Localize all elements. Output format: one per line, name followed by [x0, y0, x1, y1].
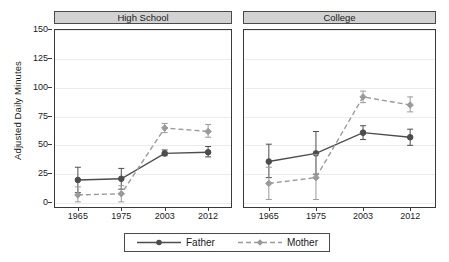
series-mother	[266, 91, 414, 199]
y-tick-label: 0	[14, 198, 48, 207]
data-point	[360, 130, 366, 136]
y-tick-label: 75	[14, 111, 48, 120]
y-tick-mark	[48, 202, 52, 203]
data-point	[118, 176, 124, 182]
data-point	[75, 177, 81, 183]
series-father	[75, 146, 211, 192]
data-point	[205, 149, 211, 155]
data-point	[162, 125, 168, 131]
plot-inner-high-school	[55, 30, 231, 207]
y-tick-label: 25	[14, 169, 48, 178]
legend-swatch-father	[136, 237, 182, 248]
data-point	[266, 159, 272, 165]
x-tick-label: 1965	[68, 212, 88, 221]
data-point	[162, 151, 168, 157]
legend-label: Mother	[287, 238, 318, 248]
series-line	[269, 133, 410, 162]
y-tick-label: 100	[14, 82, 48, 91]
y-axis-tick-labels: 0255075100125150	[14, 0, 48, 262]
panel-title-high-school: High School	[54, 11, 232, 24]
series-line	[269, 97, 410, 183]
y-tick-mark	[48, 173, 52, 174]
series-line	[78, 152, 208, 180]
legend-entry-mother[interactable]: Mother	[237, 237, 318, 248]
series-line	[78, 128, 208, 195]
y-tick-mark	[48, 87, 52, 88]
data-point	[205, 128, 211, 134]
data-point	[266, 180, 272, 186]
x-tick-label: 2012	[198, 212, 218, 221]
data-point	[407, 134, 413, 140]
x-tick-label: 2003	[155, 212, 175, 221]
x-tick-label: 1975	[306, 212, 326, 221]
series-father	[266, 126, 413, 178]
y-tick-label: 150	[14, 25, 48, 34]
gridline	[55, 203, 231, 204]
data-point	[360, 94, 366, 100]
panel-high-school: High School 1965197520032012	[54, 11, 232, 208]
y-tick-label: 50	[14, 140, 48, 149]
chart-legend: FatherMother	[124, 233, 330, 252]
plot-inner-college	[244, 30, 435, 207]
x-tick-label: 1965	[259, 212, 279, 221]
data-point	[407, 102, 413, 108]
panel-college: College 1965197520032012	[243, 11, 436, 208]
y-tick-mark	[48, 116, 52, 117]
legend-swatch-mother	[237, 237, 283, 248]
data-point	[313, 174, 319, 180]
panel-title-college: College	[243, 11, 436, 24]
gridline	[244, 203, 435, 204]
plot-area-high-school: 1965197520032012	[54, 29, 232, 208]
x-tick-label: 2012	[400, 212, 420, 221]
legend-entry-father[interactable]: Father	[136, 237, 215, 248]
y-tick-mark	[48, 58, 52, 59]
x-tick-label: 1975	[111, 212, 131, 221]
data-point	[118, 191, 124, 197]
y-tick-mark	[48, 144, 52, 145]
series-layer	[55, 30, 231, 203]
plot-area-college: 1965197520032012	[243, 29, 436, 208]
chart-figure: Adjusted Daily Minutes 0255075100125150 …	[0, 0, 449, 262]
y-tick-label: 125	[14, 53, 48, 62]
y-tick-mark	[48, 29, 52, 30]
legend-label: Father	[186, 238, 215, 248]
x-tick-label: 2003	[353, 212, 373, 221]
series-mother	[75, 123, 212, 201]
series-layer	[244, 30, 435, 203]
